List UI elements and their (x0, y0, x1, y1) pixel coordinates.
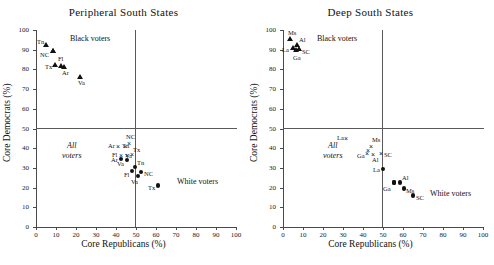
panel-title: Deep South States (247, 6, 494, 18)
x-tick (483, 227, 484, 230)
x-tick (403, 227, 404, 230)
data-point-triangle (287, 36, 293, 41)
x-tick (236, 227, 237, 230)
x-tick-label: 90 (206, 231, 226, 239)
data-point-circle (411, 193, 415, 197)
data-point-circle (156, 183, 160, 187)
data-point-circle (139, 170, 143, 174)
y-tick-label: 50 (256, 125, 276, 133)
x-tick-label: 80 (186, 231, 206, 239)
y-tick (280, 89, 283, 90)
x-tick (76, 227, 77, 230)
data-point-triangle (50, 48, 56, 53)
x-tick (136, 227, 137, 230)
point-label: Va (78, 80, 85, 87)
point-label: NC (144, 171, 153, 178)
group-annotation: Black voters (70, 35, 110, 43)
chart-panel-deep-south: Deep South States Core Democrats (%) 010… (247, 0, 494, 265)
data-point-circle (381, 167, 385, 171)
point-label: Al (372, 157, 379, 164)
y-tick-label: 100 (9, 26, 29, 34)
y-tick (33, 207, 36, 208)
x-tick-label: 70 (413, 231, 433, 239)
y-tick-label: 20 (9, 184, 29, 192)
x-tick-label: 50 (373, 231, 393, 239)
y-tick (33, 148, 36, 149)
y-tick-label: 10 (9, 203, 29, 211)
point-label: Tx (148, 185, 155, 192)
point-label: La (282, 47, 289, 54)
y-tick (280, 129, 283, 130)
y-tick-label: 40 (9, 144, 29, 152)
point-label: Tx (133, 147, 140, 154)
point-label: Fl (124, 172, 129, 179)
point-label: Al (299, 37, 306, 44)
point-label: Ms (372, 137, 380, 144)
point-label: Va (131, 179, 138, 186)
group-annotation: White voters (430, 190, 471, 198)
point-label: Fl (58, 56, 63, 63)
y-tick (33, 227, 36, 228)
x-tick (196, 227, 197, 230)
point-label: Ms (288, 30, 296, 37)
reference-line-horizontal (36, 128, 237, 129)
y-tick-label: 60 (9, 105, 29, 113)
y-tick-label: 30 (9, 164, 29, 172)
x-tick (323, 227, 324, 230)
y-tick (280, 69, 283, 70)
data-point-circle (130, 169, 134, 173)
x-tick-label: 80 (433, 231, 453, 239)
y-tick (33, 168, 36, 169)
y-tick (280, 109, 283, 110)
point-label: Tn (137, 160, 144, 167)
x-tick (56, 227, 57, 230)
x-axis-label: Core Republicans (%) (0, 239, 247, 249)
figure-root: Peripheral South States Core Democrats (… (0, 0, 494, 265)
y-tick-label: 60 (256, 105, 276, 113)
x-tick (463, 227, 464, 230)
x-tick (423, 227, 424, 230)
x-tick-label: 30 (86, 231, 106, 239)
y-tick-label: 50 (9, 125, 29, 133)
x-tick-label: 10 (46, 231, 66, 239)
y-tick (33, 89, 36, 90)
y-tick (280, 227, 283, 228)
x-tick-label: 70 (166, 231, 186, 239)
x-tick-label: 100 (473, 231, 493, 239)
group-annotation: White voters (177, 178, 218, 186)
point-label: Ga (383, 186, 391, 193)
point-label: Ga (293, 55, 301, 62)
data-point-x (115, 144, 121, 150)
y-tick (280, 188, 283, 189)
x-tick-label: 0 (26, 231, 46, 239)
point-label: SC (416, 195, 424, 202)
y-tick (33, 50, 36, 51)
group-annotation: Allvoters (323, 141, 343, 161)
y-tick (280, 168, 283, 169)
x-tick-label: 20 (313, 231, 333, 239)
x-tick (343, 227, 344, 230)
x-tick (96, 227, 97, 230)
x-tick (216, 227, 217, 230)
data-point-triangle (77, 74, 83, 79)
x-tick (176, 227, 177, 230)
x-tick (303, 227, 304, 230)
y-tick-label: 90 (9, 46, 29, 54)
x-tick (443, 227, 444, 230)
x-tick (283, 227, 284, 230)
y-tick (33, 30, 36, 31)
data-point-circle (125, 158, 129, 162)
y-tick (280, 148, 283, 149)
y-tick-label: 20 (256, 184, 276, 192)
y-tick (33, 188, 36, 189)
y-tick-label: 90 (256, 46, 276, 54)
y-tick (33, 69, 36, 70)
chart-panel-peripheral-south: Peripheral South States Core Democrats (… (0, 0, 247, 265)
y-tick-label: 100 (256, 26, 276, 34)
y-tick-label: 70 (256, 85, 276, 93)
x-tick-label: 60 (393, 231, 413, 239)
y-tick (33, 129, 36, 130)
plot-area: 0102030405060708090100010203040506070809… (283, 30, 483, 227)
point-label: NC (126, 134, 135, 141)
point-label: Ga (357, 153, 365, 160)
